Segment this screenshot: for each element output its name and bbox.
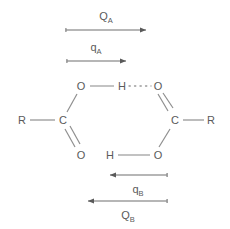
left-r-group-label: R xyxy=(18,115,26,126)
arrow-label-sub: B xyxy=(130,215,135,224)
arrow-label-sub: A xyxy=(108,16,113,25)
bond-right-carbon-to-hydroxyl-oxygen xyxy=(159,129,170,147)
arrow-label-q-lower-inner: qB xyxy=(132,184,143,195)
chemical-structure-figure: R C O O H H O O C R QA qA qB QB xyxy=(0,0,230,229)
left-carbonyl-oxygen-label: O xyxy=(77,150,86,161)
right-carbonyl-oxygen-label: O xyxy=(154,81,163,92)
bond-and-arrow-overlay xyxy=(0,0,230,229)
bridging-hydrogen-bottom-label: H xyxy=(106,150,114,161)
bond-right-carbonyl-double-a xyxy=(158,94,168,111)
bridging-hydrogen-top-label: H xyxy=(118,81,126,92)
arrow-label-main: Q xyxy=(121,209,130,221)
right-carbon-label: C xyxy=(171,115,179,126)
left-carbon-label: C xyxy=(59,115,67,126)
arrow-label-sub: B xyxy=(139,189,144,198)
bond-left-carbon-to-hydroxyl-oxygen xyxy=(67,94,77,112)
left-hydroxyl-oxygen-label: O xyxy=(77,81,86,92)
arrow-label-q-upper-outer: QA xyxy=(99,11,113,22)
right-r-group-label: R xyxy=(207,115,215,126)
arrow-label-sub: A xyxy=(97,47,102,56)
arrow-label-main: Q xyxy=(99,10,108,22)
arrow-label-q-upper-inner: qA xyxy=(90,42,101,53)
right-hydroxyl-oxygen-label: O xyxy=(154,150,163,161)
arrow-label-q-lower-outer: QB xyxy=(121,210,135,221)
